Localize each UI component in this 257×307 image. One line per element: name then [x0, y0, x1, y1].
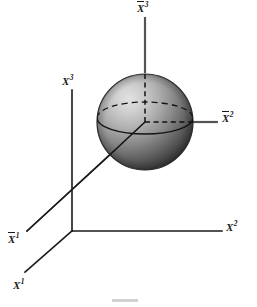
- figure-canvas: X3 X2 X1 X3 X2 X1: [0, 0, 257, 307]
- axis-label-x1-superscript: 1: [21, 277, 25, 286]
- caption-remnant: [112, 299, 138, 302]
- axis-label-x1-base: X: [13, 280, 20, 291]
- coordinate-systems-diagram: [0, 0, 257, 307]
- axis-label-x2-bar-superscript: 2: [230, 110, 234, 119]
- axis-label-x3-base: X: [62, 76, 69, 87]
- axis-label-x1-bar-base: X: [8, 234, 15, 245]
- axis-label-x1: X1: [13, 280, 24, 291]
- axis-label-x3-bar-base: X: [137, 3, 144, 14]
- axis-label-x2-base: X: [226, 222, 233, 233]
- axis-label-x3-bar: X3: [137, 3, 148, 14]
- axis-label-x3-bar-superscript: 3: [145, 0, 149, 9]
- x1-axis-line: [25, 231, 72, 272]
- axis-label-x3: X3: [62, 76, 73, 87]
- x1bar-axis-outside-segment: [27, 154, 111, 231]
- axis-label-x2-bar-base: X: [222, 113, 229, 124]
- axis-label-x2: X2: [226, 222, 237, 233]
- axis-label-x1-bar-superscript: 1: [16, 231, 20, 240]
- axis-label-x2-superscript: 2: [234, 219, 238, 228]
- axis-label-x3-superscript: 3: [70, 73, 74, 82]
- axis-label-x2-bar: X2: [222, 113, 233, 124]
- axis-label-x1-bar: X1: [8, 234, 19, 245]
